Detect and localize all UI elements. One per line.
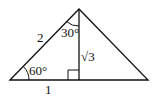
right-angle-marker (68, 70, 79, 80)
apex-angle-label: 30° (61, 25, 79, 40)
hypotenuse-label: 2 (37, 30, 44, 45)
base-segment-label: 1 (45, 82, 52, 97)
triangle-diagram: 2 30° √3 60° 1 (0, 0, 155, 101)
altitude-label: √3 (81, 49, 95, 64)
base-angle-label: 60° (29, 63, 47, 78)
